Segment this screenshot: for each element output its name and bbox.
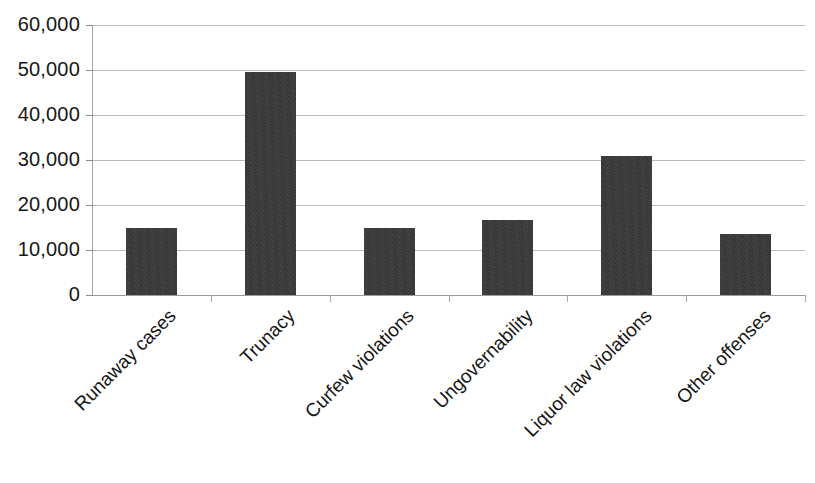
x-axis-category-label-text: Trunacy [236, 305, 299, 368]
x-axis-category-label-text: Ungovernability [429, 305, 536, 412]
y-axis-tick-label: 30,000 [2, 149, 80, 169]
gridline [92, 25, 805, 26]
y-axis-tick [86, 70, 93, 71]
x-axis-category-label-text: Liquor law violations [520, 305, 656, 441]
gridline [92, 160, 805, 161]
x-axis-category-label: Liquor law violations [520, 305, 656, 441]
x-axis-category-label: Other offenses [672, 305, 775, 408]
bar-chart-figure: 010,00020,00030,00040,00050,00060,000 Ru… [0, 0, 815, 483]
bar [364, 228, 415, 295]
x-axis-category-label: Runaway cases [71, 305, 181, 415]
x-axis-category-label: Trunacy [236, 305, 299, 368]
bar [245, 72, 296, 295]
y-axis-tick-label: 50,000 [2, 59, 80, 79]
y-axis-tick [86, 250, 93, 251]
x-axis-category-label-text: Other offenses [672, 305, 775, 408]
y-axis-tick [86, 115, 93, 116]
bar [482, 220, 533, 295]
x-axis-category-label: Curfew violations [301, 305, 418, 422]
y-axis-tick-label: 10,000 [2, 239, 80, 259]
x-axis-category-label-text: Curfew violations [301, 305, 418, 422]
x-axis-category-label-text: Runaway cases [71, 305, 181, 415]
y-axis-tick-label: 60,000 [2, 14, 80, 34]
gridline [92, 115, 805, 116]
gridline [92, 250, 805, 251]
y-axis-tick-label: 20,000 [2, 194, 80, 214]
y-axis-tick [86, 25, 93, 26]
bar [720, 234, 771, 295]
gridline [92, 70, 805, 71]
y-axis-tick [86, 205, 93, 206]
x-axis-category-labels: Runaway casesTrunacyCurfew violationsUng… [0, 295, 815, 483]
plot-area [92, 25, 805, 295]
bar [126, 228, 177, 296]
y-axis-tick-label: 40,000 [2, 104, 80, 124]
clipped-caption [0, 474, 815, 483]
y-axis-tick [86, 295, 93, 296]
bar [601, 156, 652, 296]
gridline [92, 205, 805, 206]
y-axis-tick [86, 160, 93, 161]
x-axis-category-label: Ungovernability [429, 305, 536, 412]
